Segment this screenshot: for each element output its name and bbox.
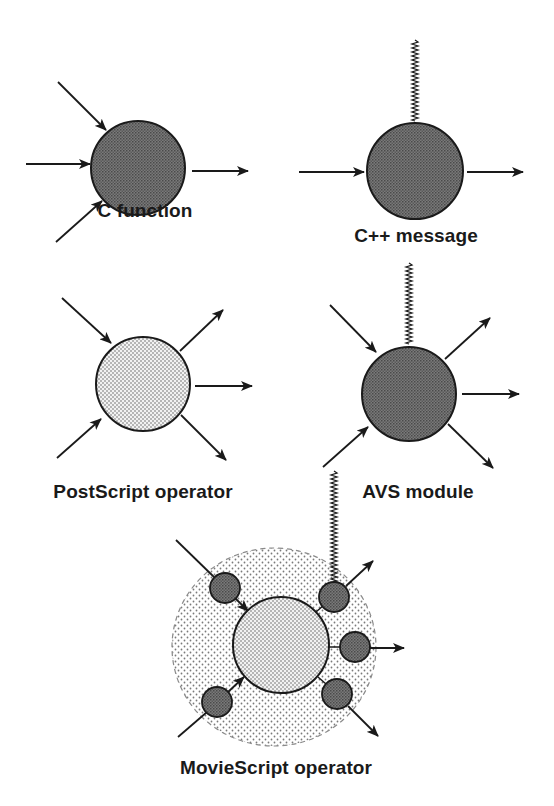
output-arrow: [181, 415, 226, 460]
small-node-in-top: [210, 573, 240, 603]
node-cpp-message: [299, 40, 523, 219]
node-avs-module: [323, 263, 519, 468]
inner-operator-circle: [233, 597, 329, 693]
label-avs-module: AVS module: [362, 481, 474, 503]
output-arrow: [445, 318, 490, 359]
input-arrow: [57, 419, 101, 458]
event-zigzag-icon: [412, 40, 418, 121]
label-c-function: C function: [98, 200, 193, 222]
small-node-out-top: [319, 582, 349, 612]
input-arrow: [323, 427, 368, 467]
module-circle: [362, 347, 456, 441]
node-postscript-operator: [57, 298, 252, 460]
operator-circle: [96, 337, 190, 431]
node-moviescript-operator: [172, 471, 404, 746]
input-arrow: [56, 201, 102, 242]
output-arrow: [346, 561, 373, 586]
input-arrow: [176, 540, 214, 577]
output-arrow: [180, 310, 223, 351]
diagram-canvas: [0, 0, 554, 806]
label-postscript-operator: PostScript operator: [53, 481, 232, 503]
input-arrow: [330, 305, 376, 352]
input-arrow: [62, 298, 111, 343]
small-node-in-bottom: [202, 687, 232, 717]
small-node-out-right: [340, 632, 370, 662]
output-arrow: [348, 706, 378, 736]
small-node-out-bottom: [322, 679, 352, 709]
label-moviescript-operator: MovieScript operator: [180, 757, 372, 779]
input-arrow: [178, 712, 207, 737]
label-cpp-message: C++ message: [354, 225, 478, 247]
message-circle: [367, 123, 463, 219]
output-arrow: [448, 424, 493, 468]
input-arrow: [58, 82, 106, 130]
event-zigzag-icon: [406, 263, 412, 344]
